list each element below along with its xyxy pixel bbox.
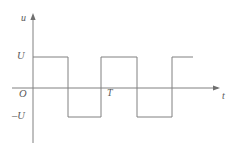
axis-label-t: t	[222, 91, 225, 101]
up-arrow-icon	[30, 13, 35, 20]
waveform-plot-svg	[0, 0, 235, 155]
horizontal-axis	[12, 85, 220, 90]
tick-label-positive-U: U	[17, 51, 25, 62]
right-arrow-icon	[213, 85, 220, 90]
origin-label: O	[19, 89, 27, 100]
square-wave-figure: u t U O –U T	[0, 0, 235, 155]
square-wave-trace	[33, 57, 193, 117]
vertical-axis	[30, 13, 35, 143]
axis-label-u: u	[21, 13, 26, 23]
period-label-T: T	[107, 88, 113, 98]
tick-label-negative-U: –U	[12, 111, 25, 122]
